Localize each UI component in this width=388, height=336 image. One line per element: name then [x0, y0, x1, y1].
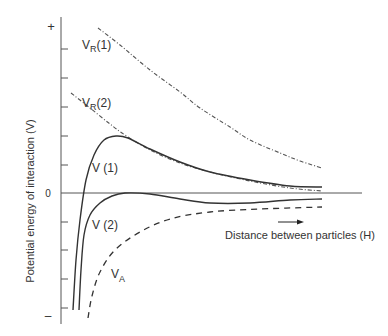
label-v2: V (2)	[92, 218, 118, 232]
y-ticks	[61, 49, 68, 308]
arrow-head-icon	[297, 220, 304, 225]
label-v1: V (1)	[92, 161, 118, 175]
y-tick-zero: 0	[45, 188, 51, 199]
y-tick-minus: –	[45, 309, 52, 323]
label-va: VA	[111, 267, 125, 284]
label-vr1: VR(1)	[82, 38, 111, 54]
y-axis-label: Potential energy of interaction (V)	[24, 119, 36, 282]
curve-vr1	[98, 28, 322, 168]
label-vr2: VR(2)	[82, 96, 111, 112]
x-axis-label: Distance between particles (H)	[225, 229, 375, 241]
curve-v2	[79, 193, 322, 310]
curve-va	[88, 207, 322, 318]
chart: + 0 – Potential energy of interaction (V…	[0, 0, 388, 336]
y-tick-plus: +	[47, 19, 55, 34]
